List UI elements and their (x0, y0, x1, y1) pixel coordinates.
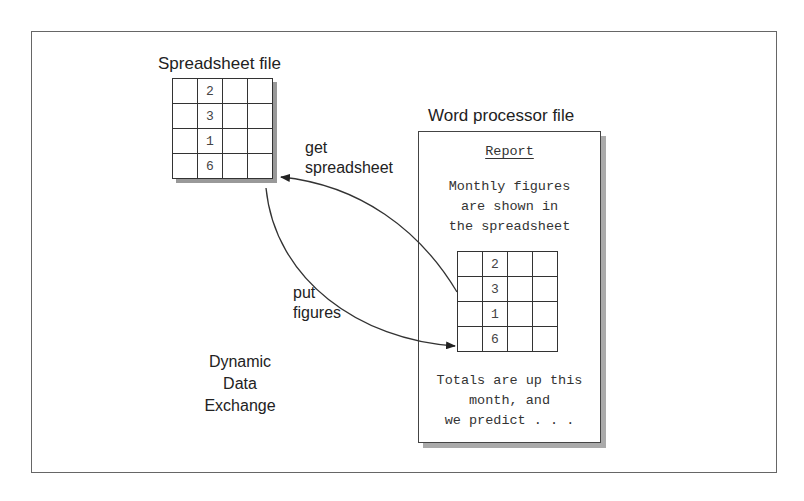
get-label-line-1: get (305, 138, 327, 158)
get-label-line-2: spreadsheet (305, 158, 393, 178)
put-label-line-2: figures (293, 303, 341, 323)
caption-line-2: Data (180, 374, 300, 394)
put-label-line-1: put (293, 283, 315, 303)
arrows-layer (0, 0, 804, 501)
caption-line-3: Exchange (180, 396, 300, 416)
caption-line-1: Dynamic (180, 352, 300, 372)
get-spreadsheet-arrow (281, 177, 457, 292)
